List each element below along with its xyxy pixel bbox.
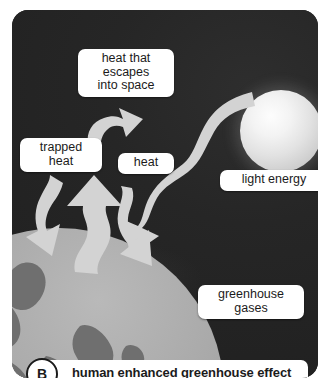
label-heat-escapes-into-space: heat that escapes into space xyxy=(78,49,174,97)
caption-text: human enhanced greenhouse effect xyxy=(72,365,291,378)
label-heat: heat xyxy=(118,153,174,174)
rising-heat-up-arrow xyxy=(67,175,122,274)
label-light-energy: light energy xyxy=(220,170,318,191)
caption-bar: human enhanced greenhouse effect xyxy=(30,360,308,378)
diagram-scene: heat that escapes into space trapped hea… xyxy=(12,10,318,378)
label-trapped-heat: trapped heat xyxy=(20,138,102,172)
greenhouse-effect-figure: heat that escapes into space trapped hea… xyxy=(0,0,328,388)
trapped-heat-down-arrow xyxy=(26,175,63,256)
label-greenhouse-gases: greenhouse gases xyxy=(198,285,304,319)
